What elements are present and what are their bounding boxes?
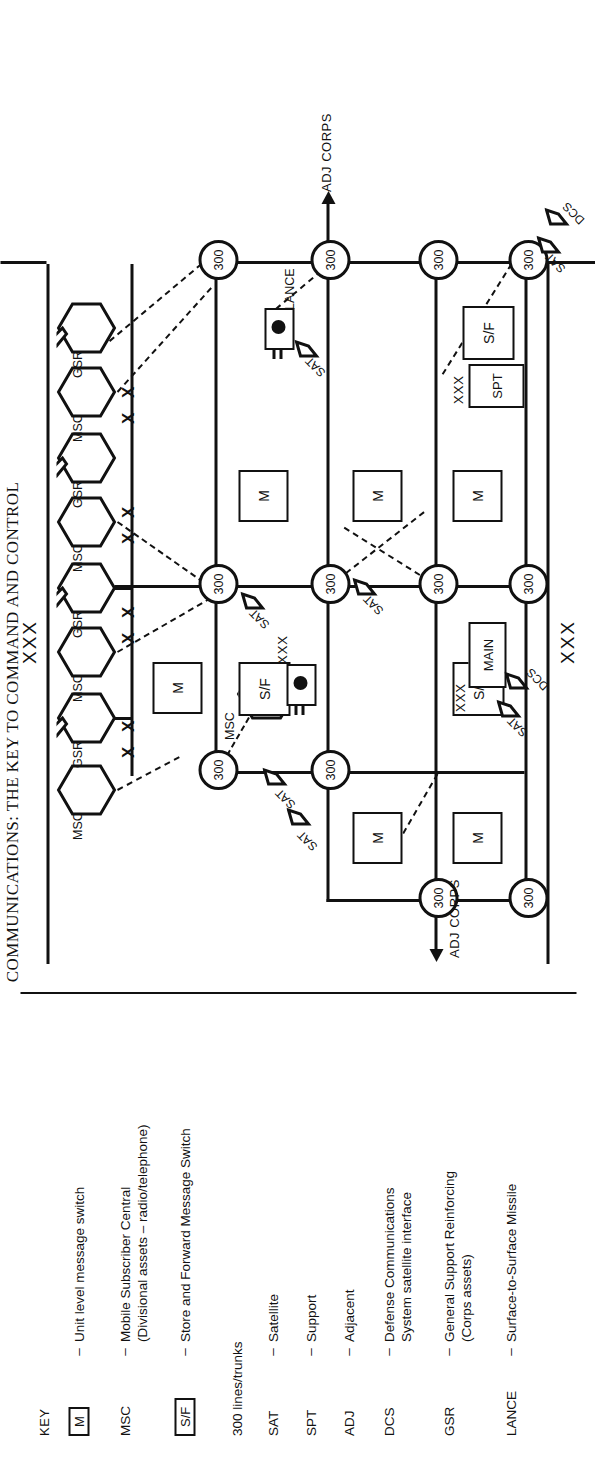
- unit-box-main[interactable]: MAIN: [468, 622, 506, 688]
- unit-box-sf-3[interactable]: S/F: [462, 306, 514, 360]
- key-heading: KEY: [36, 1408, 51, 1436]
- main-echelon-xxx: XXX: [452, 683, 467, 712]
- key-item-adj: ADJ – Adjacent: [340, 1289, 357, 1436]
- node-300-r1c2[interactable]: 300: [198, 564, 238, 604]
- node-300-r1c1[interactable]: 300: [198, 750, 238, 790]
- key-text-lance: Surface-to-Surface Missile: [502, 1184, 519, 1342]
- key-symbol-sf-box: S/F: [176, 1362, 193, 1436]
- adj-corps-arrowhead-left: [429, 949, 443, 962]
- key-item-lance: LANCE – Surface-to-Surface Missile: [502, 1184, 519, 1436]
- adj-corps-arrowhead-right: [321, 191, 335, 204]
- boundary-label-xxx-top: XXX: [18, 620, 40, 664]
- corps-boundary-line-left: [0, 261, 46, 264]
- key-text-msc-l2: (Divisional assets – radio/telephone): [133, 1124, 150, 1342]
- xxx-launcher[interactable]: [286, 664, 316, 706]
- key-symbol-m-box: M: [70, 1362, 87, 1436]
- sat-label-1: SAT: [294, 828, 320, 854]
- key-dash: –: [340, 1342, 355, 1362]
- dashed-link-msc1-node: [117, 756, 180, 791]
- key-text-msc: Mobile Subscriber Central (Divisional as…: [116, 1124, 150, 1342]
- key-dash: –: [502, 1342, 517, 1362]
- key-dash: –: [176, 1342, 191, 1362]
- gsr-hex-2: [56, 564, 114, 614]
- node-300-r2c1[interactable]: 300: [310, 750, 350, 790]
- node-300-r2c2[interactable]: 300: [310, 564, 350, 604]
- trunk-h-1: [214, 262, 217, 774]
- unit-box-m-4[interactable]: M: [352, 812, 402, 864]
- gsr-label-1: GSR: [70, 741, 84, 768]
- unit-box-spt[interactable]: SPT: [468, 364, 524, 408]
- network-diagram: XXX XXX X X X X X X X X GSR GSR: [0, 0, 595, 964]
- key-symbol-gsr: GSR: [440, 1362, 457, 1436]
- unit-box-m-6[interactable]: M: [452, 812, 502, 864]
- unit-box-sf-1[interactable]: S/F: [238, 662, 290, 716]
- key-symbol-lance: LANCE: [502, 1362, 519, 1436]
- key-text-spt: Support: [302, 1295, 319, 1342]
- key-item-m: M – Unit level message switch: [70, 1187, 87, 1436]
- key-item-spt: SPT – Support: [302, 1295, 319, 1436]
- boundary-mark-xx-2: X X: [118, 602, 138, 644]
- msc-hex-1: [56, 766, 114, 816]
- msc-label-5: MSC: [222, 712, 236, 740]
- gsr-hex-1: [56, 694, 114, 744]
- key-dash: –: [302, 1342, 317, 1362]
- trunk-v-2: [214, 771, 524, 774]
- key-symbol-msc: MSC: [116, 1362, 133, 1436]
- xxx-wheel-icon: [293, 676, 307, 690]
- adj-corps-label-left: ADJ CORPS: [446, 879, 461, 958]
- boundary-mark-xx-1: X X: [118, 716, 138, 758]
- key-dash: –: [380, 1342, 395, 1362]
- gsr-hex-4: [56, 304, 114, 354]
- msc-label-3: MSC: [70, 544, 84, 572]
- gsr-label-2: GSR: [70, 611, 84, 638]
- key-text-dcs: Defense Communications System satellite …: [380, 1187, 414, 1342]
- node-300-r1c3[interactable]: 300: [198, 240, 238, 280]
- boundary-mark-xx-3: X X: [118, 502, 138, 544]
- msc-hex-2: [56, 628, 114, 678]
- adj-corps-label-right: ADJ CORPS: [318, 113, 333, 192]
- key-text-sat: Satellite: [264, 1294, 281, 1342]
- gsr-hex-3: [56, 434, 114, 484]
- key-symbol-sat: SAT: [264, 1362, 281, 1436]
- spt-echelon-xxx: XXX: [450, 375, 465, 404]
- unit-box-m-2[interactable]: M: [238, 470, 288, 522]
- lance-rail-1: [272, 348, 275, 359]
- key-item-msc: MSC – Mobile Subscriber Central (Divisio…: [116, 1124, 150, 1436]
- node-300-r2c3[interactable]: 300: [310, 240, 350, 280]
- key-symbol-adj: ADJ: [340, 1362, 357, 1436]
- key-item-gsr: GSR – General Support Reinforcing (Corps…: [440, 1171, 474, 1436]
- key-item-sat: SAT – Satellite: [264, 1294, 281, 1436]
- key-dash: –: [264, 1342, 279, 1362]
- msc-label-1: MSC: [70, 812, 84, 840]
- boundary-label-xxx-bottom: XXX: [556, 620, 578, 664]
- gsr-label-3: GSR: [70, 481, 84, 508]
- boundary-mark-xx-4: X X: [118, 382, 138, 424]
- key-text-gsr-l2: (Corps assets): [457, 1171, 474, 1342]
- node-300-r4c2[interactable]: 300: [508, 564, 548, 604]
- xxx-launcher-label: XXX: [274, 635, 289, 664]
- trunk-v-4: [214, 261, 524, 264]
- key-text-adj: Adjacent: [340, 1289, 357, 1342]
- lance-wheel-icon: [271, 320, 285, 334]
- unit-box-m-5[interactable]: M: [452, 470, 502, 522]
- unit-box-m-1[interactable]: M: [152, 662, 202, 714]
- msc-hex-3: [56, 498, 114, 548]
- corps-boundary-line-top: [46, 264, 49, 964]
- key-text-sf: Store and Forward Message Switch: [176, 1128, 193, 1342]
- key-symbol-spt: SPT: [302, 1362, 319, 1436]
- lance-launcher[interactable]: [264, 308, 294, 350]
- key-text-m: Unit level message switch: [70, 1187, 87, 1342]
- key-text-dcs-l1: Defense Communications: [381, 1187, 396, 1342]
- unit-box-m-3[interactable]: M: [352, 470, 402, 522]
- lance-rail-2: [279, 348, 282, 359]
- node-300-r3c3[interactable]: 300: [418, 240, 458, 280]
- key-item-dcs: DCS – Defense Communications System sate…: [380, 1187, 414, 1436]
- xxx-rail-1: [294, 704, 297, 715]
- dashed-link-node-r1c3-b: [108, 263, 201, 342]
- msc-hex-4: [56, 368, 114, 418]
- sat-dish-2[interactable]: [262, 762, 292, 788]
- node-300-r3c2[interactable]: 300: [418, 564, 458, 604]
- key-dash: –: [70, 1342, 85, 1362]
- key-text-msc-l1: Mobile Subscriber Central: [117, 1187, 132, 1342]
- node-300-r4c0[interactable]: 300: [508, 878, 548, 918]
